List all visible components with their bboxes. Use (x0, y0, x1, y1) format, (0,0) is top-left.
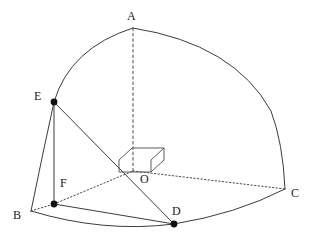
segment-o-c (133, 171, 285, 189)
point-dot-f (51, 201, 58, 208)
segment-e-d (54, 102, 174, 224)
vertex-label-e: E (34, 90, 41, 102)
segment-b-f (31, 204, 54, 211)
point-dot-d (171, 221, 178, 228)
arc-a-e-b (31, 28, 133, 211)
arc-a-c (133, 28, 285, 189)
geometry-figure: A B C D E F O (0, 0, 314, 245)
vertex-label-f: F (60, 177, 67, 189)
vertex-label-c: C (291, 187, 299, 199)
vertex-label-b: B (13, 209, 21, 221)
point-dot-e (51, 99, 58, 106)
right-angle-box-icon (119, 148, 164, 172)
vertex-label-a: A (127, 10, 136, 22)
vertex-label-d: D (172, 205, 181, 217)
vertex-label-o: O (140, 173, 149, 185)
geometry-canvas (0, 0, 314, 245)
